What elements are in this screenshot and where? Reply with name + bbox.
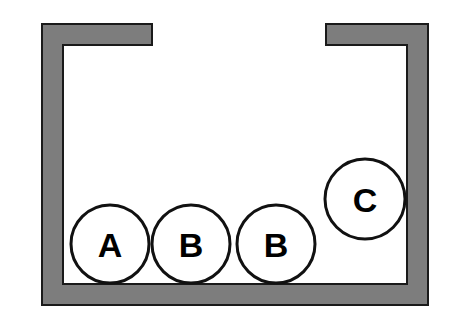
ball-a[interactable]: A [71, 205, 149, 283]
ball-b-1[interactable]: B [152, 205, 230, 283]
ball-b-1-label: B [179, 226, 204, 264]
ball-a-label: A [98, 226, 123, 264]
ball-b-2-label: B [264, 226, 289, 264]
ball-c-label: C [353, 181, 378, 219]
ball-c[interactable]: C [325, 159, 405, 239]
ball-b-2[interactable]: B [237, 205, 315, 283]
figure-root: A B B C [0, 0, 452, 332]
container-diagram: A B B C [0, 0, 452, 332]
